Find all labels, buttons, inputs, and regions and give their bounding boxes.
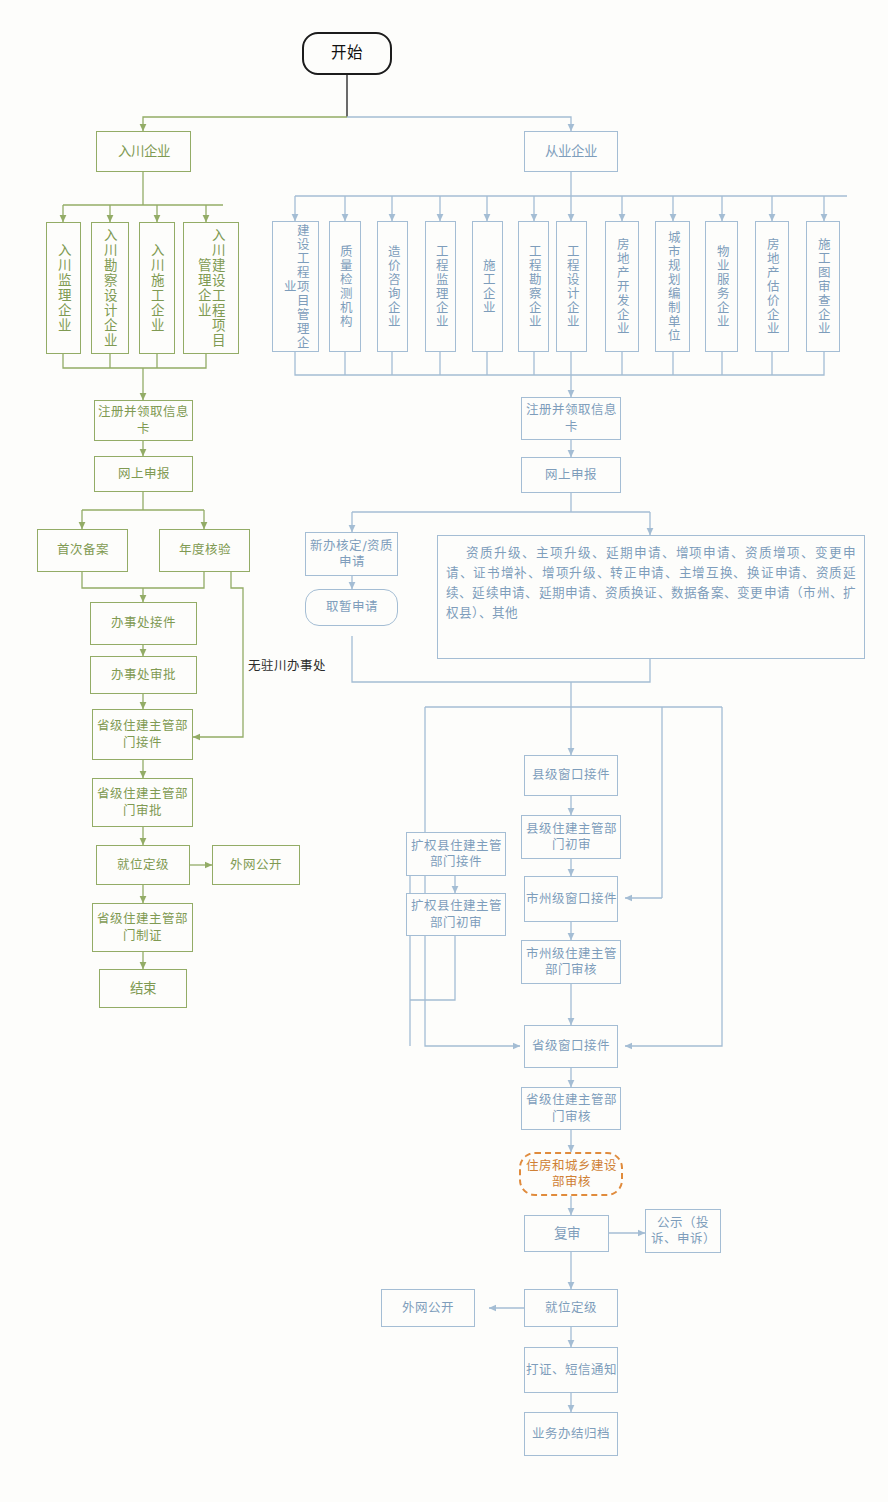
- node-left-register[interactable]: 注册并领取信息卡: [94, 400, 193, 441]
- node-re-review[interactable]: 复审: [524, 1215, 609, 1252]
- node-left-prov-certify[interactable]: 省级住建主管部门制证: [92, 903, 193, 952]
- node-left-end[interactable]: 结束: [99, 969, 187, 1008]
- node-new-approval[interactable]: 新办核定/资质申请: [305, 532, 398, 576]
- node-left-type-1[interactable]: 入川勘察设计企业: [91, 222, 129, 354]
- node-right-grading[interactable]: 就位定级: [524, 1289, 618, 1327]
- node-right-type-3[interactable]: 工程监理企业: [425, 221, 456, 352]
- start-label: 开始: [331, 43, 363, 63]
- node-right-public-web[interactable]: 外网公开: [381, 1289, 475, 1327]
- flowchart-canvas: 开始 入川企业 入川监理企业 入川勘察设计企业 入川施工企业 入川建设工程项目管…: [0, 0, 888, 1502]
- node-从业企业[interactable]: 从业企业: [524, 131, 618, 172]
- node-left-office-approve[interactable]: 办事处审批: [90, 656, 197, 694]
- node-business-list[interactable]: 资质升级、主项升级、延期申请、增项申请、资质增项、变更申请、证书增补、增项升级、…: [437, 535, 865, 659]
- node-certify-sms[interactable]: 打证、短信通知: [524, 1347, 618, 1393]
- node-right-type-5[interactable]: 工程勘察企业: [518, 221, 549, 352]
- node-right-type-0[interactable]: 建设工程项目管理企业: [272, 221, 319, 352]
- node-right-type-2[interactable]: 造价咨询企业: [377, 221, 408, 352]
- node-prov-window[interactable]: 省级窗口接件: [524, 1025, 618, 1068]
- node-left-grading[interactable]: 就位定级: [96, 845, 190, 885]
- node-ext-county-accept[interactable]: 扩权县住建主管部门接件: [406, 832, 506, 876]
- node-ministry-review[interactable]: 住房和城乡建设部审核: [519, 1152, 623, 1196]
- node-left-type-0[interactable]: 入川监理企业: [46, 222, 81, 354]
- node-ext-county-review[interactable]: 扩权县住建主管部门初审: [406, 893, 506, 936]
- node-left-annual-check[interactable]: 年度核验: [159, 529, 250, 572]
- node-left-type-3[interactable]: 入川建设工程项目管理企业: [183, 222, 239, 354]
- node-prov-review[interactable]: 省级住建主管部门审核: [521, 1087, 621, 1130]
- node-right-type-4[interactable]: 施工企业: [472, 221, 503, 352]
- node-county-review[interactable]: 县级住建主管部门初审: [521, 815, 621, 859]
- node-city-window[interactable]: 市州级窗口接件: [524, 876, 618, 922]
- node-temp-apply[interactable]: 取暂申请: [305, 589, 398, 626]
- node-right-type-8[interactable]: 城市规划编制单位: [655, 221, 690, 352]
- node-city-review[interactable]: 市州级住建主管部门审核: [521, 940, 621, 984]
- node-left-type-2[interactable]: 入川施工企业: [139, 222, 175, 354]
- node-left-prov-approve[interactable]: 省级住建主管部门审批: [92, 778, 193, 827]
- node-publicity[interactable]: 公示（投诉、申诉）: [645, 1209, 721, 1253]
- node-left-online-declare[interactable]: 网上申报: [94, 456, 193, 492]
- node-right-type-6[interactable]: 工程设计企业: [556, 221, 587, 352]
- node-right-type-10[interactable]: 房地产估价企业: [755, 221, 789, 352]
- node-left-first-record[interactable]: 首次备案: [37, 529, 128, 572]
- node-archive[interactable]: 业务办结归档: [524, 1412, 618, 1456]
- node-right-type-1[interactable]: 质量检测机构: [329, 221, 361, 352]
- node-right-register[interactable]: 注册并领取信息卡: [521, 397, 621, 440]
- node-left-prov-accept[interactable]: 省级住建主管部门接件: [92, 709, 193, 760]
- node-right-online-declare[interactable]: 网上申报: [521, 457, 621, 493]
- node-left-public-web[interactable]: 外网公开: [212, 845, 300, 885]
- node-county-window[interactable]: 县级窗口接件: [524, 755, 618, 796]
- node-入川企业[interactable]: 入川企业: [96, 131, 191, 172]
- node-right-type-7[interactable]: 房地产开发企业: [605, 221, 639, 352]
- start-terminator[interactable]: 开始: [302, 32, 392, 75]
- node-right-type-11[interactable]: 施工图审查企业: [806, 221, 840, 352]
- label-no-office-annotation: 无驻川办事处: [248, 655, 326, 674]
- node-right-type-9[interactable]: 物业服务企业: [705, 221, 738, 352]
- node-left-office-accept[interactable]: 办事处接件: [90, 602, 197, 645]
